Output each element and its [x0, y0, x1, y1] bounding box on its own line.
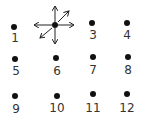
point-dot [124, 91, 130, 97]
point-dot [11, 24, 17, 30]
point-label: 4 [123, 29, 131, 41]
point-dot [124, 20, 130, 26]
point-label: 9 [12, 103, 20, 115]
point-label: 3 [89, 29, 97, 41]
point-label: 8 [124, 64, 132, 76]
point-dot [52, 22, 58, 28]
point-label: 12 [119, 102, 134, 114]
point-dot [12, 56, 18, 62]
arrow-up-right-icon [58, 11, 69, 22]
point-dot [89, 20, 95, 26]
point-dot [125, 54, 131, 60]
point-label: 7 [89, 64, 97, 76]
point-grid-diagram: 13456789101112 [0, 0, 146, 120]
arrow-down-left-icon [40, 28, 52, 38]
point-label: 10 [49, 102, 64, 114]
point-label: 1 [11, 32, 19, 44]
point-dot [90, 91, 96, 97]
point-dot [54, 93, 60, 99]
point-label: 5 [12, 65, 20, 77]
point-dot [12, 93, 18, 99]
point-label: 11 [85, 102, 100, 114]
point-label: 6 [53, 65, 61, 77]
point-dot [90, 54, 96, 60]
point-dot [53, 55, 59, 61]
